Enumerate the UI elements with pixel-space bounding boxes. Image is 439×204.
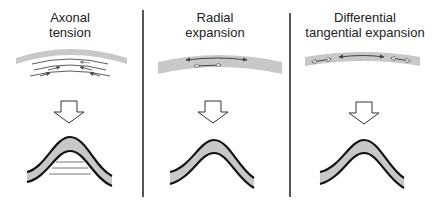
panel-1-tension-lines <box>49 162 91 174</box>
panel-3-down-arrow-icon <box>349 102 379 124</box>
panel-3-sheet <box>305 52 420 66</box>
panel-2-fold <box>170 140 254 188</box>
diagram-graphics <box>0 0 439 204</box>
diagram-canvas: Axonal tension Radial expansion Differen… <box>0 0 439 204</box>
panel-1-down-arrow-icon <box>54 101 84 123</box>
panel-3-fold <box>320 140 404 188</box>
panel-1-fold <box>27 137 112 186</box>
panel-1-sheet <box>16 49 127 64</box>
panel-2-down-arrow-icon <box>198 101 228 123</box>
panel-1-tension-arrows <box>30 59 110 76</box>
